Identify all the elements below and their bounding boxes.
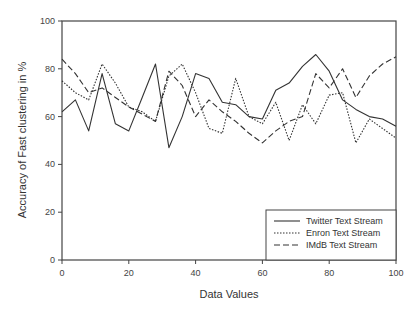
y-tick-label: 20: [45, 207, 55, 217]
legend-label-enron: Enron Text Stream: [306, 228, 380, 238]
x-tick-label: 0: [59, 268, 64, 278]
legend-label-twitter: Twitter Text Stream: [306, 216, 383, 226]
x-tick-label: 20: [124, 268, 134, 278]
line-chart: 020406080100 020406080100 Data Values Ac…: [0, 0, 418, 312]
x-axis: 020406080100: [59, 260, 403, 278]
x-tick-label: 60: [257, 268, 267, 278]
x-tick-label: 80: [324, 268, 334, 278]
legend: Twitter Text Stream Enron Text Stream IM…: [266, 210, 396, 260]
y-tick-label: 80: [45, 64, 55, 74]
y-tick-label: 40: [45, 159, 55, 169]
y-tick-label: 60: [45, 112, 55, 122]
y-axis: 020406080100: [40, 16, 62, 265]
y-axis-title: Accuracy of Fast clustering in %: [16, 62, 28, 219]
y-tick-label: 100: [40, 16, 55, 26]
x-tick-label: 100: [388, 268, 403, 278]
x-tick-label: 40: [191, 268, 201, 278]
x-axis-title: Data Values: [199, 288, 259, 300]
legend-label-imdb: IMdB Text Stream: [306, 240, 377, 250]
y-tick-label: 0: [50, 255, 55, 265]
